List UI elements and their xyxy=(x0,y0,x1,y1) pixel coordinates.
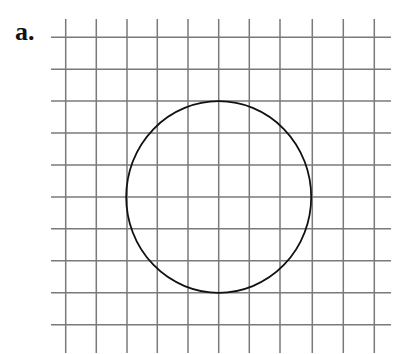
figure-canvas: a. xyxy=(0,0,417,354)
grid-lines xyxy=(51,19,391,353)
grid-diagram xyxy=(0,0,417,354)
